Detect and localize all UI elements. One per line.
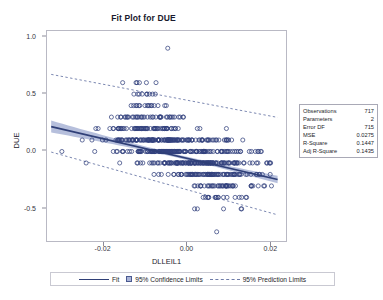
data-point xyxy=(119,115,123,119)
data-point xyxy=(157,172,161,176)
stats-value: 715 xyxy=(365,123,375,131)
data-point xyxy=(140,92,144,96)
confidence-band-icon xyxy=(126,276,132,282)
stats-value: 0.0275 xyxy=(357,131,374,139)
data-point xyxy=(221,207,225,211)
data-point xyxy=(166,46,170,50)
stats-value: 2 xyxy=(371,115,374,123)
x-tick-mark xyxy=(270,242,271,246)
x-tick-label: 0.02 xyxy=(250,245,290,252)
legend-label-confidence: 95% Confidence Limits xyxy=(135,276,202,283)
x-tick-label: -0.02 xyxy=(83,245,123,252)
legend-label-fit: Fit xyxy=(112,276,119,283)
data-point xyxy=(215,230,219,234)
data-point xyxy=(60,149,64,153)
data-point xyxy=(166,172,170,176)
stats-value: 0.1435 xyxy=(357,147,374,155)
y-tick-label: 0.0 xyxy=(10,147,36,154)
data-point xyxy=(241,138,245,142)
y-tick-label: -0.5 xyxy=(10,204,36,211)
data-point xyxy=(144,81,148,85)
x-axis-title: DLLEIL1 xyxy=(46,257,287,266)
x-tick-mark xyxy=(103,242,104,246)
stats-key: Observations xyxy=(303,107,337,115)
stats-row: R-Square0.1447 xyxy=(300,139,377,147)
data-point xyxy=(152,172,156,176)
plot-area xyxy=(46,30,287,242)
stats-value: 717 xyxy=(365,107,375,115)
stats-key: R-Square xyxy=(303,139,327,147)
fit-line xyxy=(51,127,277,180)
prediction-limit-upper xyxy=(51,74,277,117)
data-point xyxy=(195,207,199,211)
data-point xyxy=(132,92,136,96)
data-point xyxy=(250,161,254,165)
scatter-plot-svg xyxy=(47,31,286,241)
data-point xyxy=(269,184,273,188)
data-point xyxy=(154,81,158,85)
stats-row: Error DF715 xyxy=(300,123,377,131)
data-point xyxy=(195,126,199,130)
x-tick-mark xyxy=(186,242,187,246)
data-point xyxy=(129,104,133,108)
legend-item-confidence: 95% Confidence Limits xyxy=(126,276,202,283)
data-point xyxy=(109,115,113,119)
chart-title: Fit Plot for DUE xyxy=(0,13,287,23)
stats-row: Adj R-Square0.1435 xyxy=(300,147,377,155)
stats-value: 0.1447 xyxy=(357,139,374,147)
data-point xyxy=(256,184,260,188)
data-point xyxy=(118,161,122,165)
chart-legend: Fit 95% Confidence Limits 95% Prediction… xyxy=(50,272,335,286)
y-axis-title: DUE xyxy=(12,111,21,171)
fit-line-icon xyxy=(79,279,109,280)
stats-key: Parameters xyxy=(303,115,332,123)
data-point xyxy=(233,195,237,199)
y-tick-label: 0.5 xyxy=(10,90,36,97)
y-tick-label: 1.0 xyxy=(10,32,36,39)
prediction-line-icon xyxy=(210,279,240,280)
fit-statistics-box: Observations717Parameters2Error DF715MSE… xyxy=(299,104,378,158)
data-point xyxy=(80,138,84,142)
data-point xyxy=(121,81,125,85)
stats-key: Adj R-Square xyxy=(303,147,337,155)
stats-key: Error DF xyxy=(303,123,325,131)
data-point xyxy=(84,161,88,165)
data-point xyxy=(93,149,97,153)
stats-row: Parameters2 xyxy=(300,115,377,123)
legend-item-prediction: 95% Prediction Limits xyxy=(210,276,306,283)
data-point xyxy=(172,172,176,176)
x-tick-label: 0.00 xyxy=(166,245,206,252)
stats-key: MSE xyxy=(303,131,315,139)
stats-row: MSE0.0275 xyxy=(300,131,377,139)
stats-row: Observations717 xyxy=(300,107,377,115)
legend-label-prediction: 95% Prediction Limits xyxy=(243,276,306,283)
data-point xyxy=(224,126,228,130)
legend-item-fit: Fit xyxy=(79,276,119,283)
